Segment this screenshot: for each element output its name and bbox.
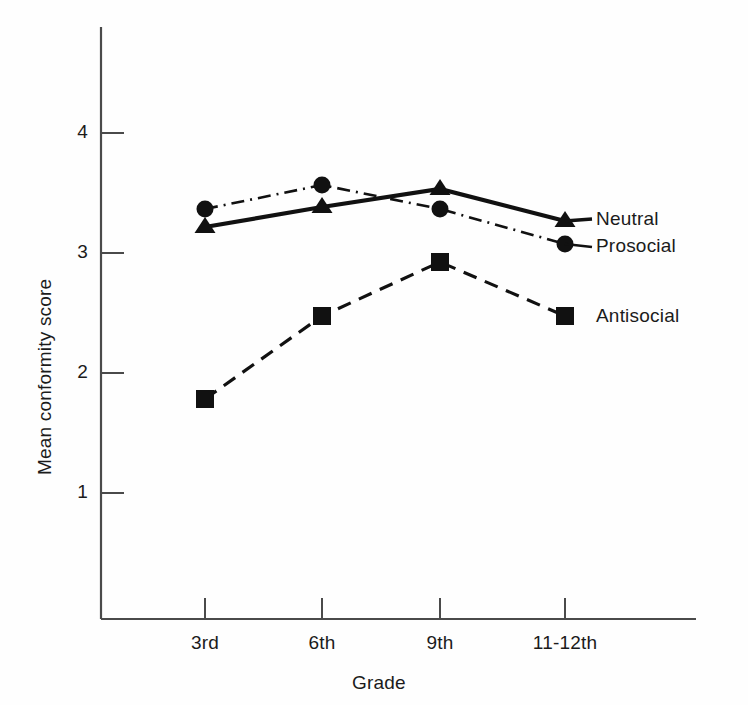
y-axis-title: Mean conformity score xyxy=(34,279,56,475)
chart-plot-area xyxy=(0,0,748,705)
y-tick-label-4: 4 xyxy=(48,121,88,143)
series-line-prosocial xyxy=(205,185,565,244)
y-tick-label-3: 3 xyxy=(48,241,88,263)
x-tick-label-3rd: 3rd xyxy=(145,632,265,654)
y-tick-label-1: 1 xyxy=(48,481,88,503)
series-line-neutral xyxy=(205,189,565,227)
legend-label-antisocial: Antisocial xyxy=(596,305,679,327)
chart-figure: 4 3 2 1 3rd 6th 9th 11-12th Mean conform… xyxy=(0,0,748,705)
legend-label-prosocial: Prosocial xyxy=(596,235,676,257)
series-markers-antisocial xyxy=(196,253,574,408)
legend-label-neutral: Neutral xyxy=(596,208,659,230)
series-markers-prosocial xyxy=(197,177,574,253)
y-tick-marks xyxy=(101,133,124,493)
x-tick-marks xyxy=(205,598,565,619)
series-markers-neutral xyxy=(195,179,576,233)
x-tick-label-6th: 6th xyxy=(262,632,382,654)
x-axis-title: Grade xyxy=(352,672,406,694)
series-line-antisocial xyxy=(205,262,565,399)
x-tick-label-9th: 9th xyxy=(380,632,500,654)
x-tick-label-11-12th: 11-12th xyxy=(505,632,625,654)
